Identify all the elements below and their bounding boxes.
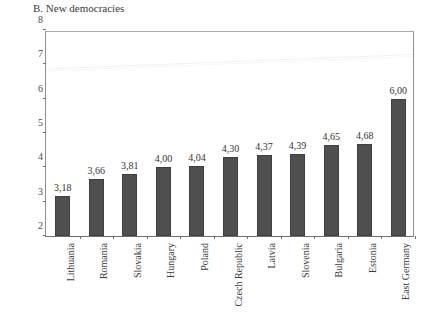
bar-value-label: 6,00 xyxy=(389,86,407,96)
y-axis-tick-mark xyxy=(43,29,46,30)
bar-rect xyxy=(324,145,339,236)
bar-value-label: 4,68 xyxy=(356,131,374,141)
x-axis-tick-mark xyxy=(281,236,282,239)
bar-value-label: 3,66 xyxy=(88,166,106,176)
bar-rect xyxy=(391,99,406,236)
bar-rect xyxy=(290,154,305,236)
y-axis-tick-mark xyxy=(43,63,46,64)
x-axis-tick-mark xyxy=(348,236,349,239)
y-axis-tick-label: 5 xyxy=(38,118,43,128)
bar-rect xyxy=(223,157,238,236)
x-axis-tick-mark xyxy=(147,236,148,239)
bar[interactable]: 4,37 xyxy=(257,155,272,236)
chart-title: B. New democracies xyxy=(33,2,124,15)
y-axis-tick-label: 4 xyxy=(38,152,43,162)
x-axis-tick-mark xyxy=(180,236,181,239)
x-axis-category-label: Czech Republic xyxy=(234,243,244,307)
y-axis-tick-label: 8 xyxy=(38,15,43,25)
y-axis-tick-label: 7 xyxy=(38,49,43,59)
bar-value-label: 4,04 xyxy=(188,153,206,163)
bar[interactable]: 3,81 xyxy=(122,174,137,236)
bar[interactable]: 4,30 xyxy=(223,157,238,236)
plot-area: 2345678 3,183,663,814,004,044,304,374,39… xyxy=(45,31,414,237)
x-axis-category-label: Lithuania xyxy=(66,243,76,281)
x-axis-tick-mark xyxy=(314,236,315,239)
bar-value-label: 4,00 xyxy=(155,154,173,164)
x-axis-tick-mark xyxy=(381,236,382,239)
bar-value-label: 4,37 xyxy=(255,142,273,152)
x-axis-category-label: Estonia xyxy=(368,243,378,273)
bar-value-label: 4,39 xyxy=(289,141,307,151)
x-axis-tick-mark xyxy=(80,236,81,239)
x-axis-category-label: Bulgaria xyxy=(334,243,344,277)
bar-rect xyxy=(122,174,137,236)
bar-rect xyxy=(55,196,70,237)
x-axis-category-label: Slovakia xyxy=(133,243,143,278)
x-axis-category-label: Latvia xyxy=(267,243,277,269)
bar-rect xyxy=(89,179,104,236)
bar[interactable]: 3,66 xyxy=(89,179,104,236)
x-axis-category-label: Slovenia xyxy=(301,243,311,278)
bar-value-label: 3,81 xyxy=(121,161,139,171)
bar-rect xyxy=(189,166,204,236)
bar-value-label: 4,30 xyxy=(222,144,240,154)
y-axis-tick-label: 3 xyxy=(38,187,43,197)
x-axis-tick-mark xyxy=(247,236,248,239)
y-axis-tick-label: 6 xyxy=(38,84,43,94)
bar[interactable]: 4,00 xyxy=(156,167,171,236)
x-axis-tick-mark xyxy=(113,236,114,239)
bar-rect xyxy=(257,155,272,236)
x-axis-category-label: Romania xyxy=(99,243,109,279)
bar[interactable]: 4,39 xyxy=(290,154,305,236)
bar[interactable]: 6,00 xyxy=(391,99,406,236)
bar-value-label: 4,65 xyxy=(322,132,340,142)
x-axis-category-label: East Germany xyxy=(401,243,411,300)
y-axis-tick-mark xyxy=(43,166,46,167)
bar-value-label: 3,18 xyxy=(54,183,72,193)
bar[interactable]: 4,04 xyxy=(189,166,204,236)
bar-rect xyxy=(156,167,171,236)
x-axis-tick-mark xyxy=(214,236,215,239)
y-axis-tick-mark xyxy=(43,201,46,202)
bar-rect xyxy=(357,144,372,236)
bar[interactable]: 4,68 xyxy=(357,144,372,236)
y-axis-tick-label: 2 xyxy=(38,221,43,231)
x-axis-tick-mark xyxy=(415,236,416,239)
y-axis-tick-mark xyxy=(43,98,46,99)
bar[interactable]: 3,18 xyxy=(55,196,70,237)
y-axis-tick-mark xyxy=(43,132,46,133)
x-axis-category-label: Hungary xyxy=(166,243,176,278)
y-axis-tick-mark xyxy=(43,235,46,236)
bar[interactable]: 4,65 xyxy=(324,145,339,236)
x-axis-category-label: Poland xyxy=(200,243,210,271)
